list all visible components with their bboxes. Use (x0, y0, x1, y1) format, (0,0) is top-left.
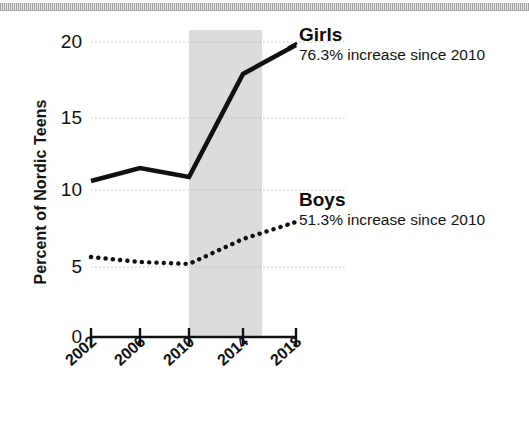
chart-page: Percent of Nordic Teens 20 15 10 5 0 200… (0, 0, 529, 426)
y-tick-label-20: 20 (42, 31, 82, 53)
series-annotation-girls: Girls 76.3% increase since 2010 (299, 24, 485, 65)
series-note-boys: 51.3% increase since 2010 (299, 211, 485, 230)
y-tick-label-5: 5 (42, 256, 82, 278)
series-label-girls: Girls (299, 24, 485, 45)
y-tick-label-10: 10 (42, 179, 82, 201)
series-annotation-boys: Boys 51.3% increase since 2010 (299, 189, 485, 230)
shaded-region (189, 30, 262, 337)
series-note-girls: 76.3% increase since 2010 (299, 46, 485, 65)
y-tick-label-15: 15 (42, 107, 82, 129)
series-label-boys: Boys (299, 189, 485, 210)
